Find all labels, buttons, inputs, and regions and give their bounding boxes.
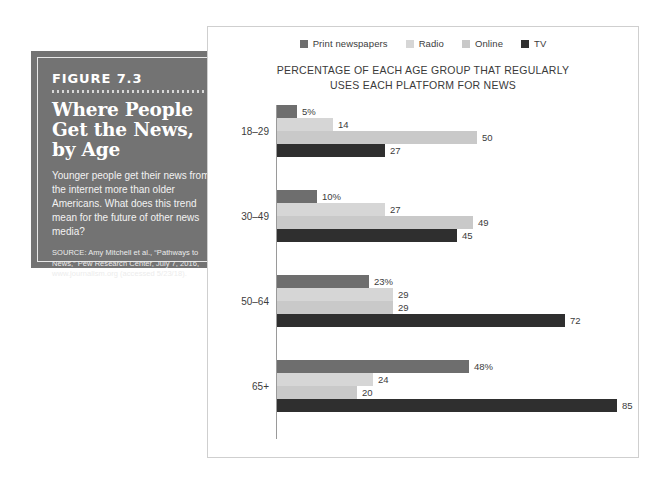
bar-value-label: 14 (338, 118, 349, 131)
bar-tv[interactable] (277, 229, 457, 242)
bar-radio[interactable] (277, 288, 393, 301)
figure-title-line-3: by Age (52, 139, 120, 160)
bar-row: 27 (277, 144, 401, 157)
bar-row: 85 (277, 399, 633, 412)
bar-value-label: 24 (378, 373, 389, 386)
legend-swatch-icon (521, 40, 529, 48)
age-group-label: 18–29 (241, 126, 269, 137)
bar-row: 24 (277, 373, 389, 386)
age-group-18-29: 18–295%145027 (276, 105, 634, 157)
bar-value-label: 72 (570, 314, 581, 327)
bar-print-newspapers[interactable] (277, 275, 369, 288)
bar-tv[interactable] (277, 399, 617, 412)
bar-radio[interactable] (277, 203, 385, 216)
figure-title-line-1: Where People (52, 99, 193, 120)
age-group-50-64: 50–6423%292972 (276, 275, 634, 327)
legend-item-print-newspapers[interactable]: Print newspapers (300, 38, 388, 49)
figure-title: Where People Get the News, by Age (52, 100, 211, 160)
figure-source: SOURCE: Amy Mitchell et al., “Pathways t… (52, 248, 211, 280)
bar-value-label: 45 (462, 229, 473, 242)
age-group-label: 65+ (252, 381, 269, 392)
bar-row: 27 (277, 203, 401, 216)
bar-radio[interactable] (277, 373, 373, 386)
bar-row: 50 (277, 131, 493, 144)
bar-value-label: 50 (482, 131, 493, 144)
bar-row: 14 (277, 118, 349, 131)
legend-label: Radio (419, 38, 444, 49)
plot-area: 18–295%14502730–4910%27494550–6423%29297… (276, 105, 634, 439)
bar-row: 48% (277, 360, 493, 373)
legend-item-tv[interactable]: TV (521, 38, 546, 49)
bar-row: 5% (277, 105, 316, 118)
bar-radio[interactable] (277, 118, 333, 131)
bar-value-label: 29 (398, 288, 409, 301)
chart-title: PERCENTAGE OF EACH AGE GROUP THAT REGULA… (208, 63, 638, 93)
legend-swatch-icon (300, 40, 308, 48)
legend-item-online[interactable]: Online (462, 38, 503, 49)
bar-value-label: 10% (322, 190, 341, 203)
bar-online[interactable] (277, 386, 357, 399)
bar-value-label: 5% (302, 105, 316, 118)
age-group-label: 30–49 (241, 211, 269, 222)
bar-row: 49 (277, 216, 489, 229)
chart-title-line-2: USES EACH PLATFORM FOR NEWS (208, 78, 638, 93)
age-group-30-49: 30–4910%274945 (276, 190, 634, 242)
bar-row: 72 (277, 314, 581, 327)
chart-title-line-1: PERCENTAGE OF EACH AGE GROUP THAT REGULA… (208, 63, 638, 78)
bar-print-newspapers[interactable] (277, 105, 297, 118)
dotted-divider (52, 90, 211, 93)
bar-value-label: 48% (474, 360, 493, 373)
bar-tv[interactable] (277, 144, 385, 157)
bar-row: 23% (277, 275, 393, 288)
figure-title-line-2: Get the News, (52, 119, 194, 140)
bar-online[interactable] (277, 131, 477, 144)
legend-swatch-icon (462, 40, 470, 48)
bar-print-newspapers[interactable] (277, 360, 469, 373)
legend-label: TV (534, 38, 546, 49)
legend-label: Online (475, 38, 503, 49)
bar-value-label: 27 (390, 203, 401, 216)
legend-swatch-icon (406, 40, 414, 48)
bar-row: 20 (277, 386, 373, 399)
figure-caption-box: FIGURE 7.3 Where People Get the News, by… (31, 51, 232, 268)
bar-online[interactable] (277, 301, 393, 314)
bar-value-label: 49 (478, 216, 489, 229)
bar-value-label: 27 (390, 144, 401, 157)
figure-number: FIGURE 7.3 (52, 71, 211, 86)
age-group-label: 50–64 (241, 296, 269, 307)
bar-row: 29 (277, 301, 409, 314)
bar-value-label: 23% (374, 275, 393, 288)
bar-value-label: 20 (362, 386, 373, 399)
legend-item-radio[interactable]: Radio (406, 38, 444, 49)
legend-label: Print newspapers (313, 38, 388, 49)
bar-print-newspapers[interactable] (277, 190, 317, 203)
chart-legend: Print newspapersRadioOnlineTV (208, 38, 638, 49)
bar-online[interactable] (277, 216, 473, 229)
bar-value-label: 29 (398, 301, 409, 314)
bar-value-label: 85 (622, 399, 633, 412)
age-group-65+: 65+48%242085 (276, 360, 634, 412)
figure-description: Younger people get their news from the i… (52, 169, 211, 239)
chart-panel: Print newspapersRadioOnlineTV PERCENTAGE… (207, 26, 639, 458)
bar-tv[interactable] (277, 314, 565, 327)
bar-row: 45 (277, 229, 473, 242)
bar-row: 29 (277, 288, 409, 301)
bar-row: 10% (277, 190, 341, 203)
figure-caption-inner: FIGURE 7.3 Where People Get the News, by… (37, 57, 226, 262)
